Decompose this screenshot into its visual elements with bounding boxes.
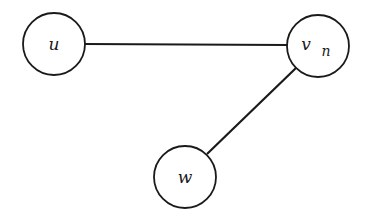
edge-u-vn bbox=[85, 44, 287, 45]
node-vn: v n bbox=[287, 15, 349, 77]
node-vn-circle bbox=[287, 15, 349, 77]
nodes-layer: u v n w bbox=[23, 13, 349, 208]
edge-vn-w bbox=[207, 68, 296, 154]
graph-diagram: u v n w bbox=[0, 0, 368, 211]
node-w-label: w bbox=[178, 167, 193, 187]
node-w: w bbox=[154, 146, 216, 208]
node-vn-subscript: n bbox=[321, 43, 330, 59]
node-vn-label: v bbox=[301, 34, 311, 54]
node-u-label: u bbox=[49, 34, 60, 54]
edges-layer bbox=[85, 44, 296, 154]
node-u: u bbox=[23, 13, 85, 75]
